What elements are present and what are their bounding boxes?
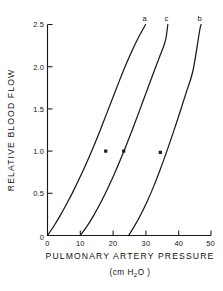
data-marker-c [122,150,125,153]
curve-c [80,25,168,236]
x-tick-label-0: 0 [45,239,49,248]
y-tick-label-1.5: 1.5 [33,105,44,114]
x-axis-unit-suffix: O ) [138,268,151,277]
curve-labels: a c b [142,14,201,23]
data-marker-a [104,150,107,153]
curve-label-b: b [197,14,201,23]
curve-label-c: c [165,14,169,23]
y-tick-label-1.0: 1.0 [33,147,44,156]
data-marker-b [159,151,162,154]
x-axis-tick-labels: 0 10 20 30 40 50 [45,239,214,248]
y-tick-label-0: 0 [40,233,44,242]
y-axis-ticks [48,25,53,194]
curve-a [48,25,146,236]
x-tick-label-20: 20 [109,239,118,248]
x-tick-label-40: 40 [174,239,183,248]
y-axis-title: RELATIVE BLOOD FLOW [6,69,16,191]
curve-label-a: a [142,14,147,23]
data-curves [48,25,202,236]
data-markers [104,150,162,154]
y-tick-label-0.5: 0.5 [33,189,44,198]
x-axis-unit: (cm H2O ) [109,268,150,278]
curve-b [129,25,202,236]
y-tick-label-2.0: 2.0 [33,63,44,72]
y-axis-tick-labels: 2.5 2.0 1.5 1.0 0.5 0 [33,20,44,241]
x-axis-title: PULMONARY ARTERY PRESSURE [46,251,215,261]
y-tick-label-2.5: 2.5 [33,20,44,29]
x-tick-label-30: 30 [142,239,151,248]
x-tick-label-50: 50 [206,239,215,248]
chart-plot: 2.5 2.0 1.5 1.0 0.5 0 0 10 20 30 40 50 [0,0,223,291]
x-tick-label-10: 10 [76,239,85,248]
figure-container: 2.5 2.0 1.5 1.0 0.5 0 0 10 20 30 40 50 [0,0,223,291]
x-axis-unit-prefix: (cm H [109,268,133,277]
